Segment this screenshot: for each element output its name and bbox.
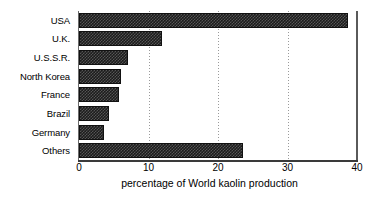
plot-area [79, 11, 357, 160]
x-axis-tick-labels: 0 10 20 30 40 [0, 162, 379, 176]
y-axis-label-5: Brazil [0, 108, 70, 119]
bar-brazil [79, 106, 109, 121]
x-tick-4: 40 [351, 162, 362, 174]
x-tick-3: 30 [282, 162, 293, 174]
y-axis-label-1: U.K. [0, 33, 70, 44]
bar-series [79, 11, 357, 160]
bar-france [79, 87, 119, 102]
x-tick-2: 20 [212, 162, 223, 174]
x-axis-title: percentage of World kaolin production [0, 177, 379, 190]
bar-germany [79, 125, 104, 140]
bar-north-korea [79, 69, 121, 84]
bar-usa [79, 13, 348, 28]
y-axis-label-4: France [0, 89, 70, 100]
y-axis-label-7: Others [0, 145, 70, 156]
y-axis-label-3: North Korea [0, 71, 70, 82]
y-axis-label-0: USA [0, 15, 70, 26]
bar-ussr [79, 50, 128, 65]
y-axis-label-2: U.S.S.R. [0, 52, 70, 63]
y-axis-category-labels: USA U.K. U.S.S.R. North Korea France Bra… [0, 11, 74, 160]
bar-uk [79, 31, 162, 46]
x-tick-1: 10 [143, 162, 154, 174]
y-axis-label-6: Germany [0, 127, 70, 138]
x-axis-title-text: percentage of World kaolin production [81, 177, 298, 190]
kaolin-production-bar-chart: USA U.K. U.S.S.R. North Korea France Bra… [0, 0, 379, 204]
x-tick-0: 0 [76, 162, 82, 174]
bar-others [79, 143, 243, 158]
